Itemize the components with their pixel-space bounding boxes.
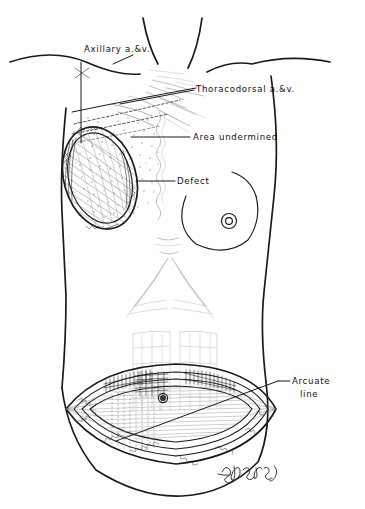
label-axillary: Axillary a.&v. (84, 44, 150, 54)
label-arcuate-line: Arcuate (292, 376, 330, 386)
label-area-undermined: Area undermined (193, 132, 278, 142)
label-thoracodorsal: Thoracodorsal a.&v. (195, 84, 295, 94)
label-arcuate-line-2: line (300, 389, 318, 399)
figure-background (0, 0, 365, 509)
medical-illustration-figure: Axillary a.&v. Thoracodorsal a.&v. Area … (0, 0, 365, 509)
illustration-canvas: Axillary a.&v. Thoracodorsal a.&v. Area … (0, 0, 365, 509)
label-defect: Defect (177, 176, 210, 186)
